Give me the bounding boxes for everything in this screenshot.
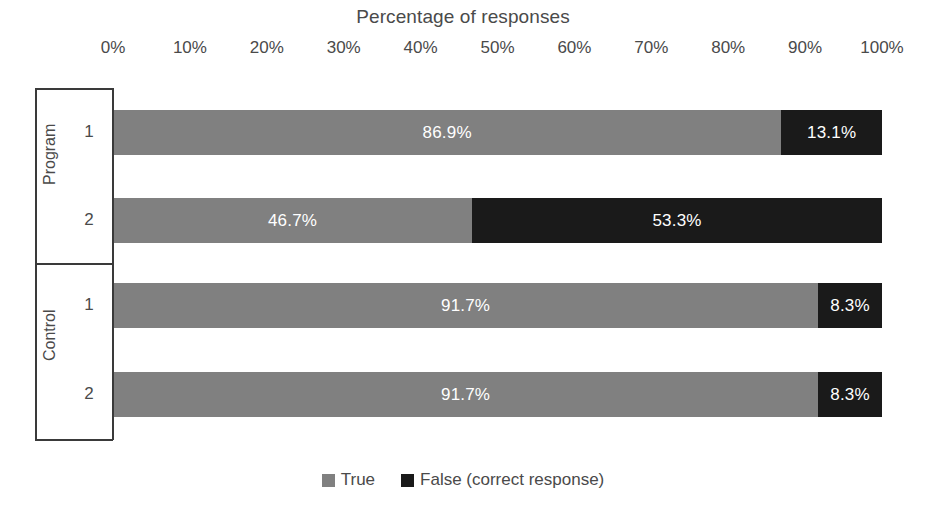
- category-label: 1: [78, 295, 100, 315]
- x-tick-label: 10%: [173, 38, 207, 58]
- bar-value-label: 8.3%: [830, 296, 870, 316]
- bar-segment-true[interactable]: 86.9%: [113, 110, 781, 155]
- bar-value-label: 91.7%: [441, 296, 490, 316]
- plot-area: 86.9%13.1%46.7%53.3%91.7%8.3%91.7%8.3%: [113, 88, 882, 440]
- bar-value-label: 13.1%: [807, 123, 856, 143]
- bar-value-label: 86.9%: [423, 123, 472, 143]
- group-bracket-control: [35, 263, 37, 440]
- group-label-control: Control: [41, 341, 59, 361]
- x-tick-label: 80%: [711, 38, 745, 58]
- x-tick-label: 50%: [480, 38, 514, 58]
- category-label: 1: [78, 122, 100, 142]
- bar-row[interactable]: 91.7%8.3%: [113, 283, 882, 328]
- legend-label: False (correct response): [420, 470, 604, 490]
- x-tick-label: 20%: [250, 38, 284, 58]
- group-label-program: Program: [41, 165, 59, 185]
- legend-swatch-icon: [322, 474, 335, 487]
- x-axis-tick-labels: 0%10%20%30%40%50%60%70%80%90%100%: [0, 38, 926, 64]
- bar-segment-false[interactable]: 13.1%: [781, 110, 882, 155]
- axis-tick-group-separator: [35, 263, 113, 265]
- bar-value-label: 53.3%: [652, 211, 701, 231]
- x-tick-label: 30%: [327, 38, 361, 58]
- x-tick-label: 60%: [557, 38, 591, 58]
- bar-segment-true[interactable]: 91.7%: [113, 283, 818, 328]
- legend-item[interactable]: False (correct response): [401, 470, 604, 490]
- bar-segment-false[interactable]: 8.3%: [818, 372, 882, 417]
- x-tick-label: 100%: [860, 38, 903, 58]
- bar-segment-false[interactable]: 53.3%: [472, 198, 882, 243]
- x-tick-label: 90%: [788, 38, 822, 58]
- category-label: 2: [78, 384, 100, 404]
- legend-item[interactable]: True: [322, 470, 375, 490]
- bar-value-label: 8.3%: [830, 385, 870, 405]
- category-label: 2: [78, 210, 100, 230]
- bar-segment-true[interactable]: 91.7%: [113, 372, 818, 417]
- legend-swatch-icon: [401, 474, 414, 487]
- axis-tick-bottom: [35, 439, 113, 441]
- bar-row[interactable]: 91.7%8.3%: [113, 372, 882, 417]
- bar-value-label: 91.7%: [441, 385, 490, 405]
- x-tick-label: 40%: [404, 38, 438, 58]
- bar-value-label: 46.7%: [268, 211, 317, 231]
- bar-segment-true[interactable]: 46.7%: [113, 198, 472, 243]
- x-tick-label: 0%: [101, 38, 126, 58]
- chart-title: Percentage of responses: [0, 6, 926, 28]
- bar-segment-false[interactable]: 8.3%: [818, 283, 882, 328]
- bar-row[interactable]: 86.9%13.1%: [113, 110, 882, 155]
- group-bracket-program: [35, 88, 37, 264]
- chart-legend: TrueFalse (correct response): [0, 470, 926, 490]
- axis-tick-top: [35, 88, 113, 90]
- bar-row[interactable]: 46.7%53.3%: [113, 198, 882, 243]
- x-tick-label: 70%: [634, 38, 668, 58]
- legend-label: True: [341, 470, 375, 490]
